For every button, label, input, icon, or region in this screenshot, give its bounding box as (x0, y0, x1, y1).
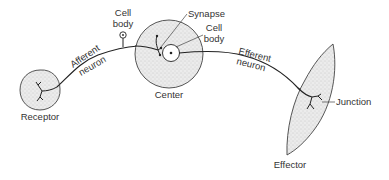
receptor-label: Receptor (21, 111, 60, 122)
center-label: Center (155, 89, 184, 100)
receptor-shape (20, 70, 60, 110)
center-cell-body-label-line2: body (204, 33, 225, 44)
synapse-knob-3 (159, 54, 161, 56)
afferent-cell-body-label-line1: Cell (115, 7, 131, 18)
afferent-cell-body-label-line2: body (113, 18, 134, 29)
receptor: Receptor (20, 70, 60, 122)
junction-label: Junction (336, 96, 371, 107)
center-cell-body-label-line1: Cell (206, 22, 222, 33)
cell-body-nucleus (122, 34, 124, 36)
synapse-knob-2 (160, 47, 162, 49)
center-cell-body-nucleus (170, 52, 173, 55)
reflex-arc-diagram: Receptor Afferent neuron Cell body Cente… (0, 0, 389, 180)
effector-label: Effector (274, 159, 307, 170)
afferent-cell-body: Cell body (113, 7, 134, 47)
synapse-knob-1 (156, 35, 158, 37)
center: Center (135, 20, 203, 100)
effector: Effector (274, 44, 335, 170)
synapse-label: Synapse (188, 8, 225, 19)
